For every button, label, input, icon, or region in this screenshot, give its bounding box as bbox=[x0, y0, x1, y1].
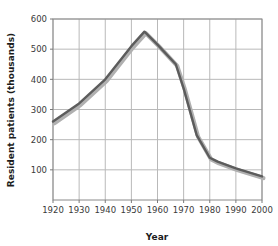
y-tick-label: 100 bbox=[31, 165, 47, 175]
x-axis-tick-labels: 192019301940195019601970198019902000 bbox=[42, 200, 273, 215]
y-axis-title: Resident patients (thousands) bbox=[6, 33, 16, 187]
y-tick-label: 200 bbox=[31, 135, 47, 145]
x-tick-label: 1980 bbox=[199, 205, 221, 215]
x-tick-label: 1990 bbox=[225, 205, 247, 215]
x-tick-label: 1920 bbox=[42, 205, 64, 215]
y-tick-label: 500 bbox=[31, 44, 47, 54]
y-tick-label: 300 bbox=[31, 105, 47, 115]
y-tick-label: 400 bbox=[31, 75, 47, 85]
x-tick-label: 1950 bbox=[121, 205, 143, 215]
x-axis-title: Year bbox=[145, 232, 169, 242]
x-tick-label: 1930 bbox=[68, 205, 90, 215]
chart-container: 192019301940195019601970198019902000 100… bbox=[0, 0, 278, 246]
x-tick-label: 1940 bbox=[94, 205, 116, 215]
x-tick-label: 2000 bbox=[251, 205, 273, 215]
y-axis-tick-labels: 100200300400500600 bbox=[31, 14, 53, 175]
y-tick-label: 600 bbox=[31, 14, 47, 24]
x-tick-label: 1960 bbox=[147, 205, 169, 215]
line-chart: 192019301940195019601970198019902000 100… bbox=[0, 0, 278, 246]
x-tick-label: 1970 bbox=[173, 205, 195, 215]
